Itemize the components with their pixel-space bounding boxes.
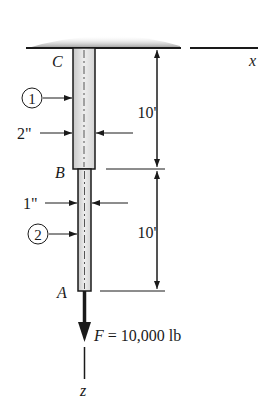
length-label-1: 10' (138, 104, 157, 121)
load-label: F = 10,000 lb (93, 327, 181, 344)
rod-segment-1 (73, 48, 95, 169)
point-label-c: C (52, 53, 63, 70)
segment-1-id: 1 (28, 91, 36, 107)
z-axis-label: z (79, 382, 87, 399)
load-symbol: F (93, 327, 104, 344)
rod-segment-2 (78, 169, 91, 291)
diameter-label-2: 1" (23, 195, 38, 212)
load-value: = 10,000 lb (108, 327, 181, 344)
x-axis-label: x (248, 52, 256, 69)
stepped-rod-diagram: x C B A 1 2 2" 1" 10' (0, 0, 270, 416)
length-label-2: 10' (138, 224, 157, 241)
ceiling-support (26, 36, 181, 48)
point-label-b: B (55, 164, 65, 181)
point-label-a: A (56, 284, 67, 301)
segment-2-id: 2 (34, 227, 42, 243)
load-arrow (78, 291, 91, 342)
diameter-label-1: 2" (17, 125, 32, 142)
